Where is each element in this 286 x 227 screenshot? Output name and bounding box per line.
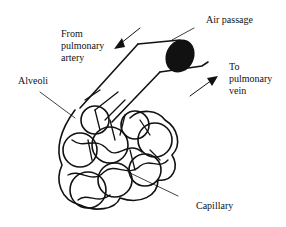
arrow-from-artery-icon [114,38,125,49]
diagram-drawing [0,0,286,227]
label-air-passage: Air passage [206,14,253,26]
label-capillary: Capillary [196,200,233,212]
label-alveoli: Alveoli [18,75,48,87]
label-from-pulmonary-artery: From pulmonary artery [61,28,104,64]
label-to-pulmonary-vein: To pulmonary vein [229,61,272,97]
arrow-to-vein-icon [207,76,218,86]
alveoli-diagram: From pulmonary artery Air passage To pul… [0,0,286,227]
